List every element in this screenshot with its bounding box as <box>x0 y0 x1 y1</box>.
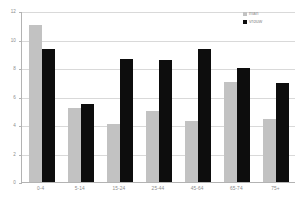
y-tick-mark-0 <box>19 183 22 184</box>
y-tick-label-8: 8 <box>0 67 16 72</box>
y-tick-label-12: 12 <box>0 10 16 15</box>
legend-item-vrouw: vrouw <box>243 19 262 24</box>
legend-label-man: man <box>249 11 259 16</box>
bar-group-15-24 <box>107 12 133 182</box>
bar-group-45-64 <box>185 12 211 182</box>
y-tick-label-4: 4 <box>0 124 16 129</box>
bar-group-0-4 <box>29 12 55 182</box>
y-tick-label-2: 2 <box>0 152 16 157</box>
bar-chart: 024681012 0-45-1415-2425-4445-6465-7475+… <box>0 0 297 214</box>
plot-area: 024681012 <box>21 12 295 183</box>
bar-man-45-64 <box>185 121 198 182</box>
x-tick-label-0-4: 0-4 <box>21 186 61 192</box>
bar-group-5-14 <box>68 12 94 182</box>
x-tick-label-75+: 75+ <box>255 186 295 192</box>
y-tick-label-0: 0 <box>0 181 16 186</box>
bar-vrouw-65-74 <box>237 68 250 182</box>
bar-vrouw-0-4 <box>42 49 55 182</box>
x-tick-label-5-14: 5-14 <box>60 186 100 192</box>
bar-vrouw-15-24 <box>120 59 133 182</box>
bar-vrouw-5-14 <box>81 104 94 182</box>
bar-man-15-24 <box>107 124 120 182</box>
gridline-0 <box>22 183 295 184</box>
bar-man-5-14 <box>68 108 81 182</box>
x-tick-label-65-74: 65-74 <box>216 186 256 192</box>
bar-group-25-44 <box>146 12 172 182</box>
bars-layer <box>22 12 295 182</box>
bar-vrouw-75+ <box>276 83 289 182</box>
y-tick-label-10: 10 <box>0 38 16 43</box>
bar-man-75+ <box>263 119 276 182</box>
bar-group-65-74 <box>224 12 250 182</box>
legend-item-man: man <box>243 11 262 16</box>
bar-group-75+ <box>263 12 289 182</box>
legend-swatch-vrouw-icon <box>243 20 247 24</box>
y-tick-label-6: 6 <box>0 95 16 100</box>
legend-swatch-man-icon <box>243 12 247 16</box>
x-tick-label-15-24: 15-24 <box>99 186 139 192</box>
x-axis-labels: 0-45-1415-2425-4445-6465-7475+ <box>21 186 295 206</box>
chart-legend: man vrouw <box>243 11 262 24</box>
bar-vrouw-45-64 <box>198 49 211 182</box>
bar-man-0-4 <box>29 25 42 182</box>
legend-label-vrouw: vrouw <box>249 19 262 24</box>
bar-man-65-74 <box>224 82 237 182</box>
bar-vrouw-25-44 <box>159 60 172 182</box>
x-tick-label-45-64: 45-64 <box>177 186 217 192</box>
x-tick-label-25-44: 25-44 <box>138 186 178 192</box>
bar-man-25-44 <box>146 111 159 182</box>
